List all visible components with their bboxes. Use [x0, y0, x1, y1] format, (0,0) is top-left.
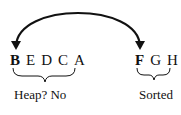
- arrowhead-left-icon: [11, 41, 21, 50]
- letter: G: [150, 52, 161, 69]
- left-brace: [13, 68, 75, 82]
- arrowhead-right-icon: [135, 41, 145, 50]
- letter: F: [135, 52, 144, 69]
- sorted-label: Sorted: [139, 87, 173, 103]
- letter: B: [10, 52, 20, 69]
- heap-label: Heap? No: [14, 87, 66, 103]
- right-sequence: FGH: [135, 52, 181, 69]
- letter: A: [74, 52, 85, 69]
- letter: C: [58, 52, 68, 69]
- letter: H: [167, 52, 178, 69]
- letter: E: [26, 52, 35, 69]
- right-brace: [137, 68, 170, 80]
- left-sequence: BEDCA: [10, 52, 91, 69]
- swap-arrow: [16, 13, 140, 46]
- letter: D: [41, 52, 52, 69]
